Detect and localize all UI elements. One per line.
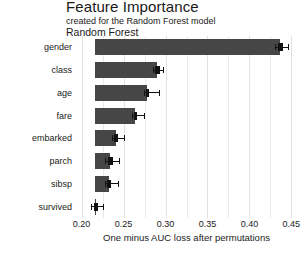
gridline-major [166,36,167,218]
y-axis-label-survived: survived [38,203,72,212]
whisker-cap-gender-lower [275,44,276,50]
whisker-cap-class-lower [153,67,154,73]
chart-subtitle: created for the Random Forest model [66,16,216,26]
x-axis-tick-0.35: 0.35 [199,220,217,229]
x-axis-tick-0.40: 0.40 [241,220,259,229]
boxplot-sibsp [107,180,111,188]
whisker-cap-sibsp-upper [118,181,119,187]
whisker-cap-sibsp-lower [105,181,106,187]
plot-area [77,36,296,218]
whisker-cap-fare-upper [144,113,145,119]
gridline-major [82,36,83,218]
y-axis-label-parch: parch [49,157,72,166]
y-axis-label-sibsp: sibsp [51,180,72,189]
boxplot-class [155,66,160,74]
x-axis-tick-0.20: 0.20 [73,220,91,229]
y-axis-label-embarked: embarked [32,134,72,143]
whisker-cap-fare-lower [132,113,133,119]
boxplot-embarked [114,134,118,142]
boxplot-survived [94,203,98,211]
y-axis-label-class: class [51,66,72,75]
boxplot-parch [108,157,113,165]
gridline-minor [270,36,271,218]
boxplot-age [146,89,149,97]
boxplot-fare [134,112,137,120]
bar-age [95,85,148,101]
whisker-cap-class-upper [163,67,164,73]
gridline-major [291,36,292,218]
feature-importance-chart: Feature Importance created for the Rando… [0,0,308,253]
bar-fare [95,108,136,124]
whisker-cap-gender-upper [288,44,289,50]
page-title: Feature Importance [66,0,216,14]
y-axis-label-fare: fare [56,112,72,121]
whisker-cap-age-upper [159,90,160,96]
gridline-minor [187,36,188,218]
whisker-cap-parch-upper [119,158,120,164]
gridline-minor [228,36,229,218]
x-axis-tick-0.45: 0.45 [283,220,301,229]
whisker-cap-survived-lower [91,204,92,210]
whisker-cap-survived-upper [103,204,104,210]
bar-gender [95,39,280,55]
title-block: Feature Importance created for the Rando… [66,0,216,38]
x-axis-title: One minus AUC loss after permutations [77,233,296,243]
whisker-cap-embarked-upper [124,135,125,141]
bar-class [95,62,158,78]
whisker-cap-embarked-lower [112,135,113,141]
whisker-cap-parch-lower [105,158,106,164]
gridline-major [207,36,208,218]
boxplot-gender [278,43,283,51]
gridline-major [249,36,250,218]
y-axis-label-gender: gender [44,43,72,52]
x-axis-tick-0.25: 0.25 [115,220,133,229]
x-axis-tick-0.30: 0.30 [157,220,175,229]
whisker-cap-age-lower [144,90,145,96]
y-axis-label-age: age [57,89,72,98]
